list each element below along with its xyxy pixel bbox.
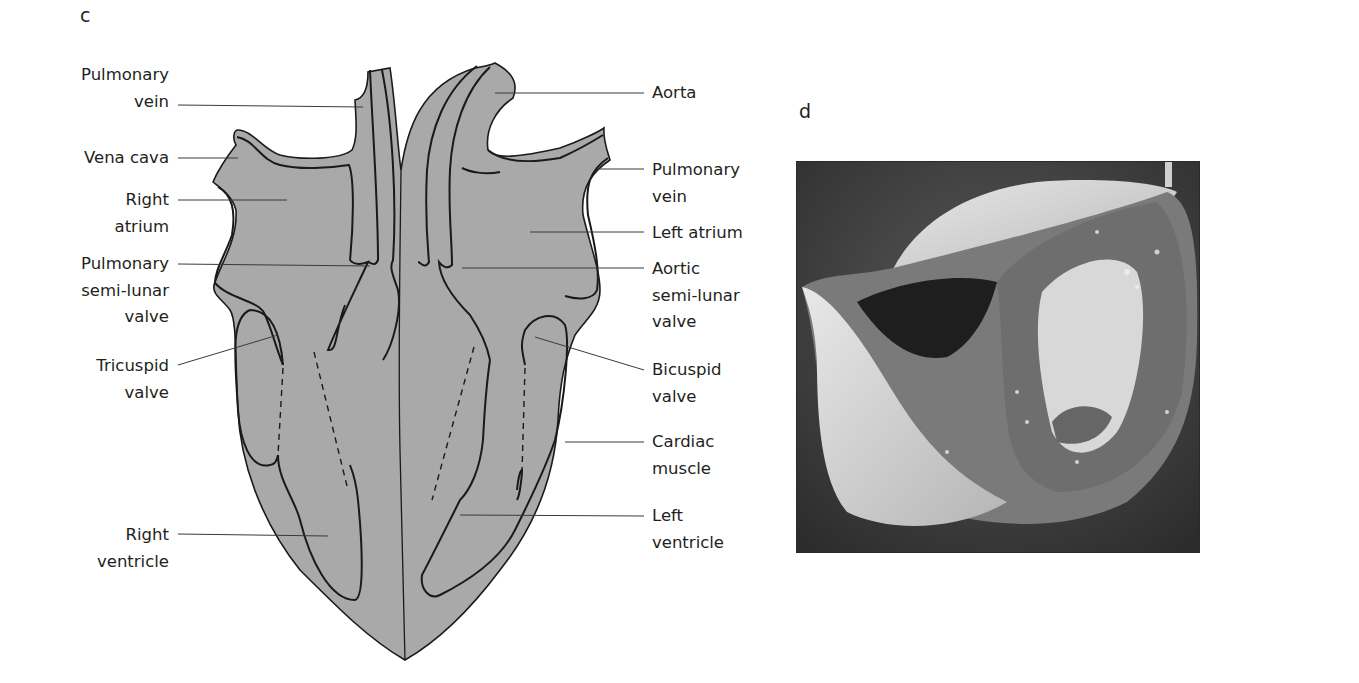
label-aortic-semi-lunar-valve: Aortic semi-lunar valve	[652, 256, 740, 336]
label-tricuspid-valve: Tricuspid valve	[96, 353, 169, 406]
label-cardiac-muscle: Cardiac muscle	[652, 429, 714, 482]
label-left-ventricle: Left ventricle	[652, 503, 724, 556]
label-vena-cava: Vena cava	[84, 145, 169, 172]
label-left-atrium: Left atrium	[652, 220, 743, 247]
heart-photograph	[796, 161, 1200, 553]
label-bicuspid-valve: Bicuspid valve	[652, 357, 722, 410]
label-right-atrium: Right atrium	[115, 187, 169, 240]
heart-body	[213, 63, 610, 660]
label-pulmonary-vein-left: Pulmonary vein	[81, 62, 169, 115]
label-aorta: Aorta	[652, 80, 696, 107]
heart-photo-illustration	[797, 162, 1199, 552]
label-right-ventricle: Right ventricle	[97, 522, 169, 575]
label-pulmonary-semi-lunar-valve: Pulmonary semi-lunar valve	[81, 251, 169, 331]
label-pulmonary-vein-right: Pulmonary vein	[652, 157, 740, 210]
